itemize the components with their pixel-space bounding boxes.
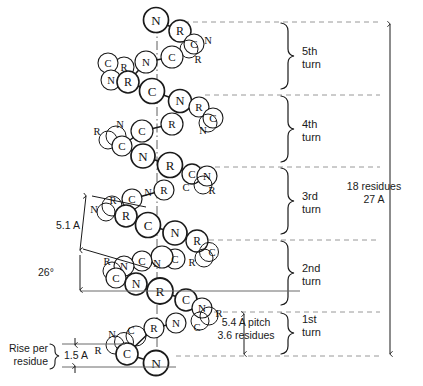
svg-text:R: R: [94, 345, 101, 356]
turn-label-4: 4th turn: [302, 118, 321, 144]
brace-turn-5: [281, 23, 294, 89]
svg-text:R: R: [150, 322, 158, 334]
brace-turn-3: [281, 168, 294, 234]
svg-text:N: N: [132, 277, 141, 291]
svg-text:R: R: [166, 158, 175, 173]
svg-text:N: N: [108, 329, 116, 340]
svg-text:N: N: [175, 94, 184, 108]
svg-text:C: C: [188, 168, 195, 180]
rise-per-residue-brace: [50, 344, 59, 369]
svg-text:N: N: [172, 317, 180, 329]
svg-text:N: N: [116, 119, 124, 130]
rise-per-residue-label: Rise per residue: [0, 342, 48, 367]
svg-text:C: C: [123, 347, 131, 361]
svg-text:C: C: [112, 272, 119, 284]
svg-text:C: C: [182, 182, 189, 193]
brace-turn-4: [281, 96, 294, 162]
svg-text:C: C: [148, 84, 157, 99]
rise-value-label: 1.5 A: [64, 349, 88, 362]
svg-text:N: N: [138, 149, 148, 164]
radius-label: 5.1 A: [56, 219, 80, 232]
svg-text:C: C: [182, 293, 190, 307]
svg-text:R: R: [208, 185, 215, 196]
svg-text:R: R: [160, 184, 168, 196]
svg-text:C: C: [138, 125, 145, 137]
pitch-label: 5.4 A pitch 3.6 residues: [203, 316, 289, 341]
svg-text:C: C: [193, 322, 200, 333]
turn-label-2: 2nd turn: [302, 262, 321, 288]
pitch-angle-label: 26°: [38, 266, 54, 279]
svg-text:R: R: [122, 209, 130, 223]
svg-text:N: N: [153, 258, 161, 269]
svg-text:R: R: [176, 24, 184, 38]
svg-text:N: N: [151, 356, 161, 371]
svg-text:N: N: [144, 187, 152, 198]
brace-turn-2: [281, 241, 294, 305]
svg-text:N: N: [204, 35, 212, 46]
svg-text:C: C: [171, 253, 178, 265]
svg-text:C: C: [144, 218, 153, 233]
svg-text:N: N: [198, 302, 206, 314]
svg-text:R: R: [124, 75, 132, 89]
svg-text:N: N: [90, 204, 98, 215]
svg-text:C: C: [168, 51, 175, 63]
svg-text:N: N: [151, 13, 161, 28]
turn-label-5: 5th turn: [302, 45, 321, 71]
svg-text:C: C: [127, 325, 134, 336]
turn-label-3: 3rd turn: [302, 190, 321, 216]
svg-text:R: R: [193, 235, 201, 247]
svg-text:R: R: [194, 54, 201, 65]
svg-text:N: N: [142, 56, 150, 68]
svg-text:R: R: [93, 126, 100, 137]
svg-text:N: N: [107, 75, 115, 86]
svg-text:C: C: [104, 58, 111, 69]
svg-text:N: N: [203, 170, 211, 182]
alpha-helix-figure: N R C N C R N R C N R C N R C N R C N R …: [0, 0, 423, 386]
svg-text:C: C: [208, 247, 215, 258]
turn-brace-group: [281, 23, 294, 354]
svg-text:R: R: [168, 118, 176, 130]
svg-text:N: N: [199, 125, 207, 136]
total-span-label: 18 residues 27 A: [330, 180, 418, 205]
svg-text:R: R: [195, 101, 203, 113]
svg-text:R: R: [188, 257, 195, 268]
svg-text:C: C: [190, 38, 197, 50]
svg-text:R: R: [120, 62, 127, 73]
svg-text:N: N: [170, 226, 179, 240]
svg-text:C: C: [118, 140, 125, 152]
turn-label-1: 1st turn: [302, 313, 321, 339]
svg-text:C: C: [209, 112, 216, 124]
